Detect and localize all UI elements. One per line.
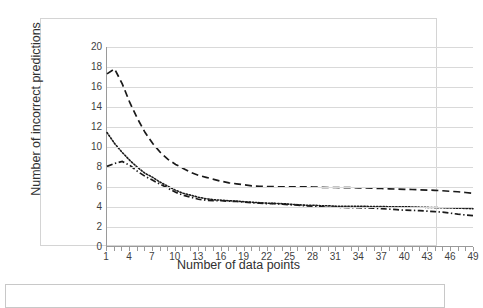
y-axis-tick-label: 4 (80, 202, 102, 212)
x-axis-tick-label: 49 (463, 251, 483, 263)
y-axis-title: Number of incorrect predictions (29, 9, 43, 209)
y-axis-tick-label: 16 (80, 82, 102, 92)
y-axis-tick-label: 6 (80, 182, 102, 192)
gridline (107, 47, 473, 48)
x-axis-tick-label: 46 (440, 251, 460, 263)
plot-area (106, 47, 473, 247)
y-axis-tick-label: 14 (80, 102, 102, 112)
gridline (107, 207, 473, 208)
series-line-dotted-series (107, 133, 473, 209)
gridline (107, 187, 473, 188)
y-axis-tick-label: 2 (80, 222, 102, 232)
y-axis-tick-label: 8 (80, 162, 102, 172)
gridline (107, 147, 473, 148)
gridline (107, 127, 473, 128)
gridline (107, 87, 473, 88)
gridline (107, 67, 473, 68)
y-axis-tick-label: 18 (80, 62, 102, 72)
x-axis-title: Number of data points (40, 258, 437, 272)
y-axis-tick-label: 12 (80, 122, 102, 132)
legend-box (5, 284, 445, 308)
gridline (107, 227, 473, 228)
y-axis-tick-labels: 20181614121086420 (78, 47, 102, 247)
chart-frame: 20181614121086420 1471013161922252831343… (40, 18, 437, 246)
gridline (107, 167, 473, 168)
gridline (107, 107, 473, 108)
y-axis-tick-label: 10 (80, 142, 102, 152)
y-axis-tick-label: 20 (80, 42, 102, 52)
